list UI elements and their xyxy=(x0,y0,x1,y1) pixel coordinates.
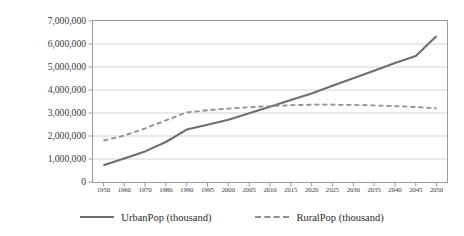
y-axis-ticks xyxy=(88,0,93,236)
legend-item-urbanpop[interactable]: UrbanPop (thousand) xyxy=(80,212,211,223)
legend-swatch-solid-line xyxy=(80,216,114,218)
legend-item-ruralpop[interactable]: RuralPop (thousand) xyxy=(255,212,383,223)
y-axis-tick-labels: 01,000,0002,000,0003,000,0004,000,0005,0… xyxy=(28,0,86,236)
series-line-ruralpop xyxy=(103,105,436,141)
legend-swatch-dashed-line xyxy=(255,216,289,218)
gridlines xyxy=(93,44,447,159)
legend-label-urbanpop: UrbanPop (thousand) xyxy=(121,212,211,223)
plot-area xyxy=(92,20,448,183)
chart-legend: UrbanPop (thousand) RuralPop (thousand) xyxy=(0,206,464,228)
x-axis-ticks xyxy=(0,183,464,188)
y-axis-tick-label: 6,000,000 xyxy=(28,39,86,49)
y-axis-tick-label: 1,000,000 xyxy=(28,154,86,164)
y-axis-tick-label: 5,000,000 xyxy=(28,62,86,72)
series-line-urbanpop xyxy=(103,36,436,165)
y-axis-tick-label: 4,000,000 xyxy=(28,85,86,95)
data-series-group xyxy=(103,36,436,165)
y-axis-tick-label: 2,000,000 xyxy=(28,131,86,141)
y-axis-tick-label: 3,000,000 xyxy=(28,108,86,118)
y-axis-title: Population (millions) xyxy=(13,0,27,22)
plot-svg xyxy=(93,21,447,182)
line-chart: Population (millions) 01,000,0002,000,00… xyxy=(0,0,464,236)
legend-label-ruralpop: RuralPop (thousand) xyxy=(296,212,383,223)
y-axis-tick-label: 7,000,000 xyxy=(28,16,86,26)
